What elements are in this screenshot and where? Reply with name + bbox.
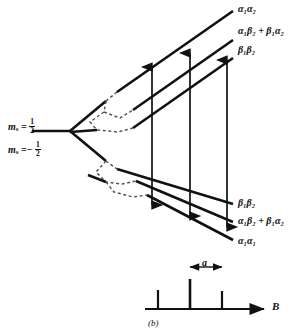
ms-symbol: m (8, 144, 16, 155)
upper-level-2 (104, 40, 233, 118)
label-lower-level-1: β₁β₂ (238, 198, 255, 208)
label-upper-level-2: α₁β₂ + β₁α₂ (238, 26, 284, 36)
fraction-denominator: 2 (35, 149, 41, 158)
ms-sign: − (27, 144, 33, 155)
label-ms-plus: ms = 1 2 (8, 118, 35, 135)
label-upper-level-1: α₁α₂ (238, 4, 256, 14)
fraction-half: 1 2 (35, 141, 41, 158)
ms-equals: = (21, 121, 27, 132)
label-lower-level-3: α₁α₁ (238, 236, 256, 246)
label-ms-minus: ms =− 1 2 (8, 141, 41, 158)
label-axis-b: B (272, 301, 279, 312)
lower-level-2 (96, 161, 233, 222)
upper-level-1 (106, 11, 233, 101)
fraction-half: 1 2 (29, 118, 35, 135)
ms-subscript: s (16, 125, 19, 133)
label-splitting-a: a (202, 258, 207, 268)
ms-symbol: m (8, 121, 16, 132)
label-upper-level-3: β₁β₂ (238, 45, 255, 55)
lower-level-1 (106, 161, 233, 204)
fraction-numerator: 1 (29, 118, 35, 126)
fraction-denominator: 2 (29, 126, 35, 135)
figure-caption: (b) (148, 318, 159, 328)
label-lower-level-2: α₁β₂ + β₁α₂ (238, 216, 284, 226)
ms-subscript: s (16, 148, 19, 156)
fraction-numerator: 1 (35, 141, 41, 149)
spectrum-plot (145, 267, 264, 309)
lower-level-3 (88, 175, 233, 240)
